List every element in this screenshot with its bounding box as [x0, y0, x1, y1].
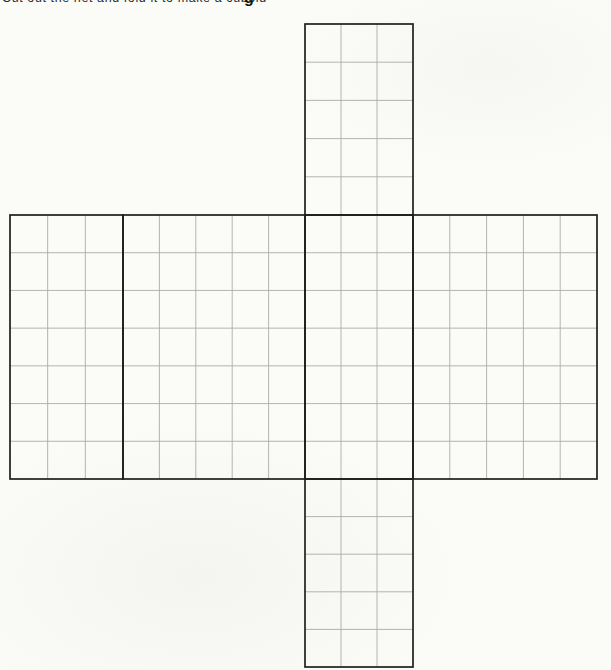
top-face-3x5-outline [305, 24, 413, 215]
side-face-3x7-left-outline [10, 215, 123, 479]
scanned-worksheet-page: Cut out the net and fold it to make a cu… [0, 0, 611, 670]
side-face-5x7-right-outline [413, 215, 597, 479]
side-face-5x7-front-outline [123, 215, 305, 479]
bottom-face-3x5-outline [305, 479, 413, 667]
cuboid-net-diagram [0, 0, 611, 670]
side-face-3x7-middle-outline [305, 215, 413, 479]
